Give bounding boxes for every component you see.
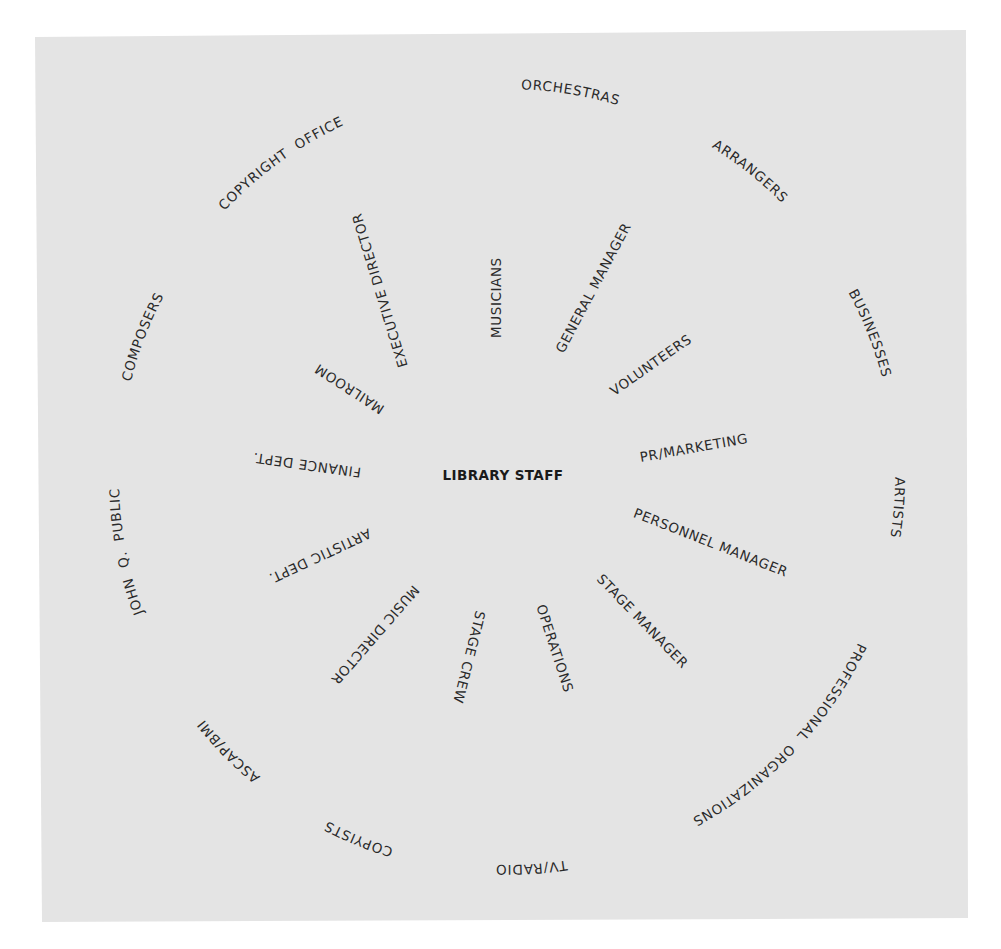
inner-label-musicians: MUSICIANS bbox=[488, 257, 504, 338]
center-label-library-staff: LIBRARY STAFF bbox=[443, 467, 564, 483]
relationship-diagram: LIBRARY STAFF MUSICIANS GENERAL MANAGER … bbox=[0, 0, 1001, 949]
